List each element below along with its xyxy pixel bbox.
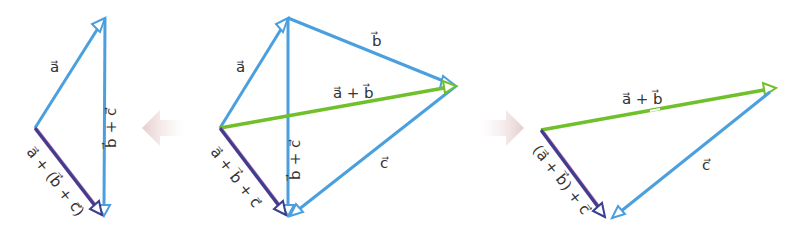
fade-arrow-left-icon <box>142 110 186 146</box>
arrowhead-icon <box>92 18 105 32</box>
panel-left: a⃗ b⃗ + c⃗ a⃗ + (b⃗ + c⃗) <box>23 18 120 220</box>
vector-c <box>612 92 770 218</box>
label-c: c⃗ <box>702 156 711 174</box>
label-a: a⃗ <box>236 58 245 76</box>
label-a-plus-b: a⃗ + b⃗ <box>333 83 374 102</box>
label-b: b⃗ <box>370 31 382 50</box>
label-b-plus-c: b⃗ + c⃗ <box>101 107 120 150</box>
vector-b <box>288 18 456 88</box>
label-c: c⃗ <box>380 154 389 172</box>
arrowhead-icon <box>443 81 456 93</box>
panel-middle: a⃗ b⃗ c⃗ a⃗ + b⃗ b⃗ + c⃗ a⃗ + b⃗ + c⃗ <box>207 18 456 216</box>
vector-a <box>35 18 105 128</box>
label-resultant: (a⃗ + b⃗) + c⃗ <box>529 141 596 219</box>
label-a-plus-b: a⃗ + b⃗ <box>622 89 663 108</box>
panel-right: a⃗ + b⃗ c⃗ (a⃗ + b⃗) + c⃗ <box>529 83 776 219</box>
fade-arrow-right-icon <box>480 110 524 146</box>
vector-a <box>220 18 288 128</box>
label-a: a⃗ <box>50 58 59 76</box>
vector-c <box>290 86 456 216</box>
vector-addition-associativity-diagram: a⃗ b⃗ + c⃗ a⃗ + (b⃗ + c⃗) <box>0 0 793 244</box>
label-b-plus-c: b⃗ + c⃗ <box>285 139 304 182</box>
arrowhead-icon <box>276 18 288 32</box>
